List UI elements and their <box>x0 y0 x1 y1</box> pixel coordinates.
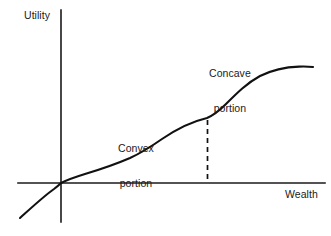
convex-portion-label-line1: Convex <box>118 143 154 155</box>
utility-curve <box>20 67 313 218</box>
concave-portion-label: Concave portion <box>209 45 251 138</box>
concave-portion-label-line2: portion <box>209 103 251 115</box>
x-axis-label: Wealth <box>285 189 318 201</box>
convex-portion-label-line2: portion <box>118 178 154 190</box>
utility-function-diagram: Utility Wealth Convex portion Concave po… <box>0 0 331 236</box>
y-axis-label: Utility <box>24 10 50 22</box>
convex-portion-label: Convex portion <box>118 120 154 213</box>
concave-portion-label-line1: Concave <box>209 68 251 80</box>
diagram-canvas <box>0 0 331 236</box>
